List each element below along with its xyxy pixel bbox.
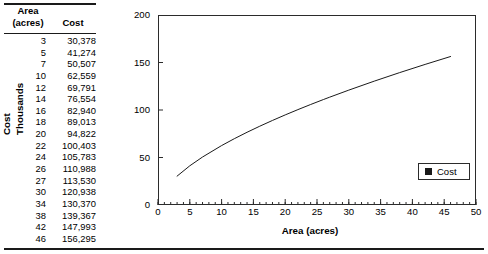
cell-cost: 41,274	[48, 47, 96, 59]
cell-cost: 147,993	[48, 221, 96, 233]
cell-cost: 130,370	[48, 198, 96, 210]
cell-area: 24	[6, 151, 46, 163]
legend-label-cost: Cost	[437, 167, 457, 177]
column-header-area-line1: Area	[10, 5, 46, 17]
cell-area: 46	[6, 233, 46, 245]
figure-bottom-rule	[4, 248, 484, 250]
figure-table-and-chart: Area (acres) Cost 330,378541,274750,5071…	[0, 0, 488, 254]
legend-swatch-cost	[425, 168, 432, 175]
cell-area: 26	[6, 163, 46, 175]
table-row: 42147,993	[0, 221, 100, 233]
cell-area: 38	[6, 210, 46, 222]
cell-cost: 105,783	[48, 151, 96, 163]
cell-area: 30	[6, 186, 46, 198]
series-line-cost	[177, 57, 450, 177]
x-axis-title: Area (acres)	[220, 225, 400, 236]
table-row: 26110,988	[0, 163, 100, 175]
table-row: 541,274	[0, 47, 100, 59]
y-axis-title: Cost Thousands	[6, 66, 126, 124]
cell-area: 3	[6, 35, 46, 47]
y-axis-title-line2: Thousands	[14, 83, 25, 135]
column-header-cost: Cost	[50, 17, 96, 29]
table-row: 330,378	[0, 35, 100, 47]
cell-cost: 110,988	[48, 163, 96, 175]
x-tick-label: 20	[273, 207, 297, 217]
x-tick-label: 25	[305, 207, 329, 217]
table-header-rule	[4, 33, 96, 34]
x-axis-major-ticks	[158, 199, 476, 205]
y-tick-label: 50	[112, 153, 150, 163]
y-axis-major-ticks	[158, 63, 163, 158]
chart-legend: Cost	[418, 163, 470, 180]
table-row: 27113,530	[0, 175, 100, 187]
cell-area: 20	[6, 128, 46, 140]
x-tick-label: 10	[210, 207, 234, 217]
cell-area: 22	[6, 140, 46, 152]
cell-cost: 100,403	[48, 140, 96, 152]
cell-cost: 120,938	[48, 186, 96, 198]
table-row: 38139,367	[0, 210, 100, 222]
cell-cost: 113,530	[48, 175, 96, 187]
cell-area: 27	[6, 175, 46, 187]
x-tick-label: 0	[146, 207, 170, 217]
x-tick-label: 15	[241, 207, 265, 217]
table-row: 34130,370	[0, 198, 100, 210]
x-tick-label: 45	[432, 207, 456, 217]
y-tick-label: 200	[112, 10, 150, 20]
cell-cost: 30,378	[48, 35, 96, 47]
x-tick-label: 50	[464, 207, 488, 217]
table-row: 22100,403	[0, 140, 100, 152]
cell-area: 42	[6, 221, 46, 233]
x-tick-label: 40	[400, 207, 424, 217]
table-row: 46156,295	[0, 233, 100, 245]
cell-area: 5	[6, 47, 46, 59]
column-header-area-line2: (acres)	[4, 17, 52, 29]
chart-panel: 050100150200 05101520253035404550 Cost T…	[100, 0, 488, 248]
cell-cost: 94,822	[48, 128, 96, 140]
cell-area: 34	[6, 198, 46, 210]
y-axis-title-line1: Cost	[1, 113, 12, 135]
x-tick-label: 35	[369, 207, 393, 217]
table-row: 24105,783	[0, 151, 100, 163]
cell-cost: 156,295	[48, 233, 96, 245]
table-row: 30120,938	[0, 186, 100, 198]
y-tick-label: 0	[112, 200, 150, 210]
cell-cost: 139,367	[48, 210, 96, 222]
x-tick-label: 5	[178, 207, 202, 217]
x-tick-label: 30	[337, 207, 361, 217]
